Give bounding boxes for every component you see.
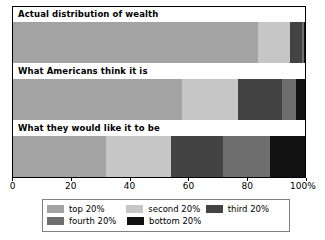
legend-swatch-icon bbox=[127, 217, 144, 225]
bar-segment-top-20 bbox=[13, 136, 106, 177]
bar-group-label: What they would like it to be bbox=[13, 121, 305, 136]
stacked-bar bbox=[13, 79, 305, 120]
plot-area: Actual distribution of wealth What Ameri… bbox=[12, 6, 306, 178]
x-axis-tick-label: 20 bbox=[65, 181, 76, 191]
bar-segment-third-20 bbox=[290, 22, 302, 63]
legend-swatch-icon bbox=[47, 205, 64, 213]
bar-segment-bottom-20 bbox=[270, 136, 305, 177]
bar-segment-second-20 bbox=[258, 22, 290, 63]
bar-segment-second-20 bbox=[182, 79, 237, 120]
stacked-bar bbox=[13, 136, 305, 177]
bar-group-label: Actual distribution of wealth bbox=[13, 7, 305, 22]
bar-group-think: What Americans think it is bbox=[13, 64, 305, 120]
bar-segment-top-20 bbox=[13, 79, 182, 120]
legend-label: top 20% bbox=[69, 204, 105, 214]
legend-swatch-icon bbox=[47, 217, 64, 225]
x-axis-tick-label: 0 bbox=[10, 181, 16, 191]
x-axis-tick-label: 60 bbox=[183, 181, 194, 191]
legend-label: third 20% bbox=[228, 204, 269, 214]
legend-item[interactable]: bottom 20% bbox=[127, 216, 207, 226]
bar-group-actual: Actual distribution of wealth bbox=[13, 7, 305, 63]
stacked-bar bbox=[13, 22, 305, 63]
legend-label: second 20% bbox=[148, 204, 200, 214]
legend-item[interactable]: second 20% bbox=[126, 204, 205, 214]
bar-segment-top-20 bbox=[13, 22, 258, 63]
legend-item[interactable]: fourth 20% bbox=[47, 216, 127, 226]
legend-item[interactable]: top 20% bbox=[47, 204, 126, 214]
legend-item[interactable]: third 20% bbox=[206, 204, 285, 214]
wealth-distribution-chart: Actual distribution of wealth What Ameri… bbox=[0, 0, 325, 240]
x-axis-tick-label: 100% bbox=[290, 181, 316, 191]
bar-segment-fourth-20 bbox=[282, 79, 297, 120]
x-axis: 020406080100% bbox=[12, 178, 306, 192]
legend-row: top 20%second 20%third 20% bbox=[47, 203, 285, 215]
x-axis-tick-label: 80 bbox=[241, 181, 252, 191]
bar-segment-third-20 bbox=[171, 136, 224, 177]
bar-segment-fourth-20 bbox=[223, 136, 270, 177]
legend-swatch-icon bbox=[126, 205, 143, 213]
legend-label: bottom 20% bbox=[149, 216, 201, 226]
bar-segment-bottom-20 bbox=[296, 79, 305, 120]
bar-segment-second-20 bbox=[106, 136, 170, 177]
legend-row: fourth 20%bottom 20% bbox=[47, 215, 285, 227]
legend-swatch-icon bbox=[206, 205, 223, 213]
chart-legend: top 20%second 20%third 20%fourth 20%bott… bbox=[42, 199, 290, 232]
bar-group-label: What Americans think it is bbox=[13, 64, 305, 79]
legend-label: fourth 20% bbox=[69, 216, 116, 226]
bar-segment-third-20 bbox=[238, 79, 282, 120]
bar-segment-bottom-20 bbox=[304, 22, 305, 63]
x-axis-tick-label: 40 bbox=[124, 181, 135, 191]
bar-group-ideal: What they would like it to be bbox=[13, 121, 305, 177]
